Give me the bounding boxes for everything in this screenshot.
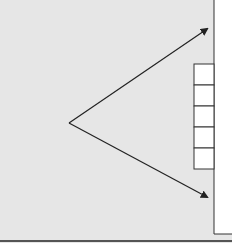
stack-cell	[194, 127, 214, 148]
stack-cell	[194, 148, 214, 169]
stack-cell	[194, 106, 214, 127]
diagram-canvas	[0, 0, 232, 243]
cell-stack	[194, 64, 214, 169]
stack-cell	[194, 85, 214, 106]
diagram-svg	[0, 0, 232, 243]
white-panel	[214, 0, 232, 234]
stack-cell	[194, 64, 214, 85]
